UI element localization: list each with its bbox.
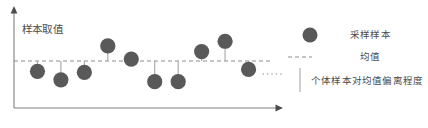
- legend-label-mean: 均值: [360, 52, 380, 62]
- sample-point: [241, 62, 256, 77]
- axes-group: [11, 6, 283, 111]
- y-axis-arrowhead: [11, 6, 18, 14]
- sample-point: [53, 72, 68, 87]
- y-axis-label: 样本取值: [22, 24, 63, 35]
- legend-sample-marker: [303, 28, 318, 43]
- sample-point: [171, 74, 186, 89]
- sample-point: [194, 44, 209, 59]
- sample-point: [147, 74, 162, 89]
- chart-canvas: [0, 0, 428, 128]
- sample-point: [30, 64, 45, 79]
- sample-point: [217, 34, 232, 49]
- sample-point: [100, 38, 115, 53]
- sampling-deviation-figure: 样本取值 采样样本 均值 个体样本对均值偏离程度: [0, 0, 428, 128]
- x-axis-arrowhead: [276, 105, 284, 112]
- legend-label-sample: 采样样本: [350, 30, 391, 40]
- legend-label-deviation: 个体样本对均值偏离程度: [311, 76, 423, 86]
- sample-point: [77, 65, 92, 80]
- sample-point: [124, 52, 139, 67]
